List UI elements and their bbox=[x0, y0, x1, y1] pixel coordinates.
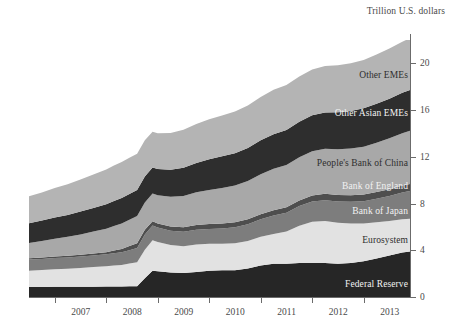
y-axis-tick bbox=[410, 157, 416, 158]
x-axis-tick bbox=[364, 297, 365, 303]
plot-svg bbox=[29, 40, 410, 297]
x-axis-label: 2007 bbox=[71, 307, 90, 317]
series-label: Federal Reserve bbox=[345, 279, 408, 289]
series-label: Bank of England bbox=[342, 181, 408, 191]
y-axis-label: 20 bbox=[420, 58, 430, 68]
x-axis-tick bbox=[106, 297, 107, 303]
y-axis-line bbox=[410, 34, 411, 298]
x-axis-label: 2013 bbox=[380, 307, 399, 317]
y-axis-tick bbox=[410, 110, 416, 111]
series-label: People's Bank of China bbox=[317, 158, 408, 168]
y-axis-label: 12 bbox=[420, 152, 430, 162]
x-axis-line bbox=[29, 297, 411, 298]
y-axis-label: 16 bbox=[420, 105, 430, 115]
x-axis-tick bbox=[55, 297, 56, 303]
y-axis-title: Trillion U.S. dollars bbox=[367, 6, 445, 16]
y-axis-tick bbox=[410, 204, 416, 205]
stacked-area-chart: Trillion U.S. dollars 048121620 20072008… bbox=[0, 0, 453, 332]
x-axis-tick bbox=[209, 297, 210, 303]
y-axis-label: 8 bbox=[420, 199, 425, 209]
y-axis-tick bbox=[410, 250, 416, 251]
y-axis-label: 4 bbox=[420, 245, 425, 255]
y-axis-tick bbox=[410, 297, 416, 298]
x-axis-label: 2009 bbox=[174, 307, 193, 317]
x-axis-tick bbox=[261, 297, 262, 303]
x-axis-tick bbox=[158, 297, 159, 303]
plot-area bbox=[29, 40, 410, 297]
x-axis-label: 2012 bbox=[329, 307, 348, 317]
series-label: Eurosystem bbox=[362, 235, 408, 245]
x-axis-label: 2008 bbox=[123, 307, 142, 317]
x-axis-tick bbox=[312, 297, 313, 303]
series-label: Bank of Japan bbox=[352, 206, 408, 216]
y-axis-tick bbox=[410, 63, 416, 64]
y-axis-label: 0 bbox=[420, 292, 425, 302]
x-axis-label: 2011 bbox=[277, 307, 296, 317]
series-label: Other EMEs bbox=[359, 70, 408, 80]
x-axis-label: 2010 bbox=[226, 307, 245, 317]
series-label: Other Asian EMEs bbox=[335, 108, 408, 118]
